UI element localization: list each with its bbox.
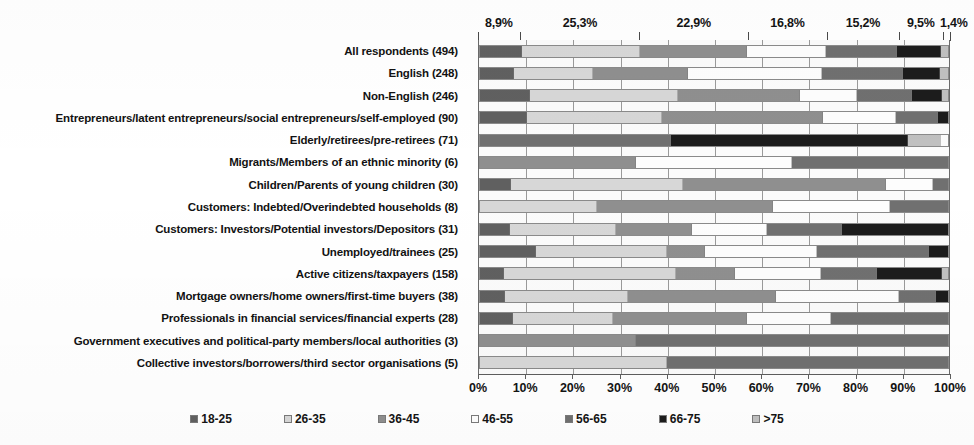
stacked-bar[interactable] [479, 178, 949, 191]
bar-segment-over-75[interactable] [908, 135, 941, 146]
bar-segment-66-75[interactable] [929, 246, 948, 257]
bar-segment-26-35[interactable] [527, 112, 662, 123]
bar-segment-66-75[interactable] [938, 112, 948, 123]
bar-segment-46-55[interactable] [735, 268, 821, 279]
bar-segment-56-65[interactable] [817, 246, 929, 257]
bar-segment-46-55[interactable] [688, 68, 822, 79]
bar-segment-66-75[interactable] [912, 90, 942, 101]
category-label: Government executives and political-part… [74, 331, 458, 351]
legend-item-46-55[interactable]: 46-55 [471, 413, 513, 425]
legend-item-56-65[interactable]: 56-65 [565, 413, 607, 425]
bar-segment-56-65[interactable] [636, 335, 948, 346]
bar-segment-46-55[interactable] [705, 246, 817, 257]
legend-item-66-75[interactable]: 66-75 [659, 413, 701, 425]
stacked-bar[interactable] [479, 356, 949, 369]
bar-segment-66-75[interactable] [877, 268, 942, 279]
bar-segment-over-75[interactable] [941, 46, 948, 57]
bar-segment-26-35[interactable] [530, 90, 678, 101]
bar-segment-36-45[interactable] [662, 112, 823, 123]
stacked-bar[interactable] [479, 267, 949, 280]
bar-segment-18-25[interactable] [480, 268, 504, 279]
bar-segment-46-55[interactable] [747, 313, 831, 324]
bar-segment-36-45[interactable] [480, 157, 636, 168]
bar-segment-18-25[interactable] [480, 291, 505, 302]
legend-swatch-icon [378, 415, 386, 423]
bar-segment-26-35[interactable] [511, 179, 683, 190]
bar-segment-26-35[interactable] [514, 68, 593, 79]
bar-segment-18-25[interactable] [480, 246, 536, 257]
bar-segment-18-25[interactable] [480, 112, 527, 123]
bar-segment-56-65[interactable] [890, 201, 949, 212]
legend-item-36-45[interactable]: 36-45 [378, 413, 420, 425]
legend-item-over-75[interactable]: >75 [752, 413, 783, 425]
stacked-bar[interactable] [479, 200, 949, 213]
stacked-bar[interactable] [479, 290, 949, 303]
bar-segment-66-75[interactable] [671, 135, 908, 146]
bar-segment-26-35[interactable] [522, 46, 640, 57]
bar-segment-36-45[interactable] [678, 90, 800, 101]
stacked-bar[interactable] [479, 89, 949, 102]
stacked-bar[interactable] [479, 223, 949, 236]
bar-segment-56-65[interactable] [831, 313, 948, 324]
legend-item-18-25[interactable]: 18-25 [190, 413, 232, 425]
legend-item-26-35[interactable]: 26-35 [284, 413, 326, 425]
bar-segment-46-55[interactable] [886, 179, 933, 190]
bar-segment-56-65[interactable] [822, 68, 903, 79]
bar-segment-56-65[interactable] [821, 268, 877, 279]
stacked-bar[interactable] [479, 156, 949, 169]
bar-segment-66-75[interactable] [897, 46, 941, 57]
bar-segment-66-75[interactable] [842, 224, 948, 235]
bar-segment-36-45[interactable] [683, 179, 886, 190]
bar-segment-46-55[interactable] [747, 46, 826, 57]
bar-segment-56-65[interactable] [792, 157, 948, 168]
bar-segment-26-35[interactable] [480, 201, 597, 212]
bar-segment-56-65[interactable] [899, 291, 936, 302]
stacked-bar[interactable] [479, 67, 949, 80]
bar-segment-56-65[interactable] [933, 179, 948, 190]
bar-segment-66-75[interactable] [903, 68, 941, 79]
bar-segment-56-65[interactable] [767, 224, 842, 235]
stacked-bar[interactable] [479, 134, 949, 147]
bar-segment-18-25[interactable] [480, 46, 522, 57]
bar-segment-46-55[interactable] [773, 201, 890, 212]
bar-segment-36-45[interactable] [616, 224, 691, 235]
bar-segment-36-45[interactable] [676, 268, 735, 279]
stacked-bar[interactable] [479, 334, 949, 347]
bar-segment-18-25[interactable] [480, 90, 530, 101]
bar-segment-46-55[interactable] [692, 224, 767, 235]
bar-segment-26-35[interactable] [510, 224, 616, 235]
stacked-bar[interactable] [479, 312, 949, 325]
bar-segment-56-65[interactable] [857, 90, 912, 101]
bar-segment-over-75[interactable] [942, 90, 948, 101]
bar-segment-46-55[interactable] [776, 291, 899, 302]
bar-segment-18-25[interactable] [480, 68, 514, 79]
bar-segment-56-65[interactable] [896, 112, 938, 123]
bar-segment-36-45[interactable] [593, 68, 688, 79]
bar-segment-36-45[interactable] [640, 46, 747, 57]
bar-segment-36-45[interactable] [480, 335, 636, 346]
bar-segment-36-45[interactable] [597, 201, 773, 212]
bar-segment-18-25[interactable] [480, 224, 510, 235]
bar-segment-46-55[interactable] [823, 112, 896, 123]
bar-segment-46-55[interactable] [636, 157, 792, 168]
bar-segment-26-35[interactable] [513, 313, 613, 324]
bar-segment-66-75[interactable] [936, 291, 948, 302]
stacked-bar[interactable] [479, 111, 949, 124]
bar-segment-over-75[interactable] [942, 268, 948, 279]
bar-segment-over-75[interactable] [940, 68, 947, 79]
bar-segment-36-45[interactable] [628, 291, 776, 302]
bar-segment-26-35[interactable] [505, 291, 628, 302]
bar-segment-46-55[interactable] [800, 90, 857, 101]
bar-segment-18-25[interactable] [480, 313, 513, 324]
bar-segment-56-65[interactable] [480, 135, 671, 146]
bar-segment-56-65[interactable] [667, 357, 948, 368]
bar-segment-36-45[interactable] [667, 246, 704, 257]
stacked-bar[interactable] [479, 45, 949, 58]
stacked-bar[interactable] [479, 245, 949, 258]
bar-segment-26-35[interactable] [480, 357, 667, 368]
bar-segment-26-35[interactable] [536, 246, 667, 257]
bar-segment-18-25[interactable] [480, 179, 511, 190]
bar-segment-26-35[interactable] [504, 268, 676, 279]
bar-segment-56-65[interactable] [826, 46, 897, 57]
bar-segment-36-45[interactable] [613, 313, 747, 324]
